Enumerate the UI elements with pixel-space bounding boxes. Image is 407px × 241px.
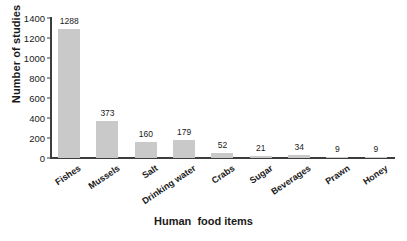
bar-slot: 1288 — [50, 18, 88, 158]
y-axis-title: Number of studies — [10, 0, 22, 114]
bar-chart: Number of studies 0200400600800100012001… — [0, 0, 407, 241]
x-axis-title: Human food items — [0, 215, 407, 227]
x-axis-category-label: Beverages — [269, 163, 312, 197]
bar[interactable] — [96, 121, 118, 158]
x-axis-category-label: Salt — [140, 163, 159, 181]
bar-slot: 9 — [318, 18, 356, 158]
bar-slot: 34 — [280, 18, 318, 158]
bar-value-label: 34 — [294, 142, 303, 152]
y-axis-tick-label: 1400 — [24, 13, 45, 24]
bar[interactable] — [173, 140, 195, 158]
plot-area: 0200400600800100012001400128837316017952… — [50, 18, 395, 158]
y-axis-tick-label: 1200 — [24, 33, 45, 44]
bar-slot: 373 — [88, 18, 126, 158]
y-axis-tick-label: 400 — [29, 113, 45, 124]
bar-value-label: 1288 — [60, 16, 79, 26]
x-axis-category-label: Honey — [361, 163, 389, 187]
bar[interactable] — [135, 142, 157, 158]
bar-slot: 9 — [357, 18, 395, 158]
bar[interactable] — [250, 156, 272, 158]
bar-value-label: 9 — [335, 144, 340, 154]
bar[interactable] — [326, 157, 348, 158]
bar[interactable] — [365, 157, 387, 158]
bar-value-label: 160 — [139, 129, 153, 139]
bar-value-label: 9 — [373, 144, 378, 154]
bar-value-label: 179 — [177, 127, 191, 137]
bar-value-label: 52 — [218, 140, 227, 150]
bar-value-label: 21 — [256, 143, 265, 153]
bar-slot: 52 — [203, 18, 241, 158]
y-axis-tick-label: 600 — [29, 93, 45, 104]
bar-slot: 160 — [127, 18, 165, 158]
y-axis-tick-label: 200 — [29, 133, 45, 144]
x-axis-category-label: Prawn — [323, 163, 351, 186]
bar-slot: 21 — [242, 18, 280, 158]
x-axis-category-label: Sugar — [248, 163, 275, 186]
y-axis-tick-label: 0 — [40, 153, 45, 164]
x-axis-category-label: Crabs — [209, 163, 236, 186]
bar-value-label: 373 — [100, 108, 114, 118]
x-axis-category-label: Mussels — [86, 163, 121, 191]
bar-slot: 179 — [165, 18, 203, 158]
bar[interactable] — [58, 29, 80, 158]
bar[interactable] — [211, 153, 233, 158]
y-axis-tick-label: 1000 — [24, 53, 45, 64]
x-axis-category-label: Fishes — [54, 163, 83, 187]
y-axis-tick-label: 800 — [29, 73, 45, 84]
bar[interactable] — [288, 155, 310, 158]
